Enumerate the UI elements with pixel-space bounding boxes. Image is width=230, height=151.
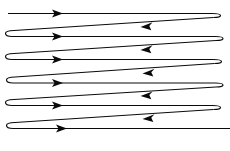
return-arrow-icon-4 <box>141 91 153 99</box>
return-arrow-icon-1 <box>141 22 153 30</box>
turnaround-left-2 <box>6 54 15 60</box>
turnaround-left-3 <box>7 77 16 83</box>
scan-path-svg <box>0 0 230 151</box>
return-arrow-icon-3 <box>143 69 155 77</box>
turnaround-left-4 <box>6 100 15 106</box>
turnaround-left-5 <box>7 123 16 129</box>
turnaround-right-1 <box>212 14 221 18</box>
turnaround-right-3 <box>213 60 222 64</box>
turnaround-right-2 <box>215 37 223 41</box>
turnaround-right-5 <box>212 106 221 110</box>
return-arrow-icon-5 <box>143 114 155 122</box>
return-diagonal-line-4 <box>14 87 216 100</box>
return-diagonal-line-1 <box>14 18 214 31</box>
return-arrow-icon-2 <box>141 45 153 53</box>
return-diagonal-line-3 <box>15 64 215 78</box>
raster-scan-diagram <box>0 0 230 151</box>
return-diagonal-line-2 <box>14 41 216 54</box>
turnaround-left-1 <box>6 31 15 37</box>
return-diagonal-line-5 <box>15 110 214 123</box>
turnaround-right-4 <box>215 83 223 87</box>
